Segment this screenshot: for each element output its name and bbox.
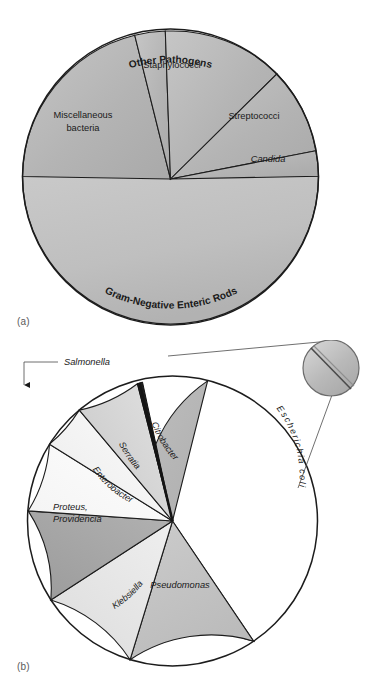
label-streptococci: Streptococci [228, 111, 279, 121]
callout-leader-top [168, 341, 330, 356]
panel-a-caption: (a) [17, 316, 30, 327]
label-candida: Candida [251, 154, 286, 164]
salmonella-arrow [24, 362, 58, 385]
label-salmonella: Salmonella [64, 357, 110, 367]
panel-b-caption: (b) [17, 661, 30, 672]
label-proteus-providencia: Proteus, [53, 502, 88, 512]
figure-two-pie-charts: Other Pathogens Staphylococci Streptococ… [0, 0, 372, 695]
label-miscellaneous-bacteria-line2: bacteria [66, 123, 100, 133]
label-proteus-providencia-line2: Providencia [53, 514, 102, 524]
pie-chart-panel-b: Salmonella Escherichia coli Pseudomonas … [0, 340, 372, 695]
label-escherichia-coli: Escherichia coli [275, 404, 308, 489]
label-staphylococci: Staphylococci [143, 60, 200, 70]
label-miscellaneous-bacteria: Miscellaneous [54, 110, 113, 120]
pie-chart-panel-a: Other Pathogens Staphylococci Streptococ… [0, 0, 372, 340]
label-pseudomonas: Pseudomonas [150, 580, 210, 590]
